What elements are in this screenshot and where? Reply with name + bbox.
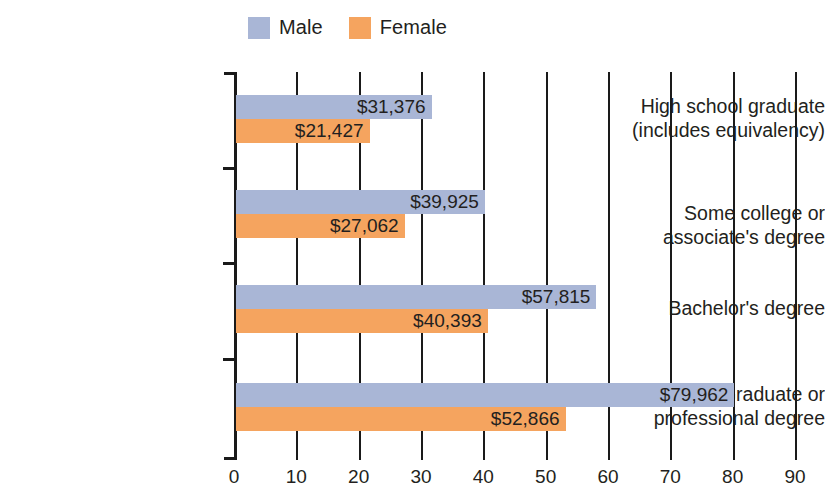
plot-area: $31,376$21,427$39,925$27,062$57,815$40,3… [234,72,795,460]
bar-bachelors-male: $57,815 [236,285,596,309]
bar-graduate-female: $52,866 [236,407,566,431]
bar-value-label: $39,925 [410,191,479,213]
bar-bachelors-female: $40,393 [236,309,488,333]
bar-value-label: $79,962 [660,384,729,406]
x-tick-label-10: 10 [286,466,307,488]
bar-value-label: $40,393 [413,310,482,332]
x-tick-label-30: 30 [410,466,431,488]
category-separator-tick-1 [223,262,234,265]
category-separator-tick-0 [223,167,234,170]
legend-item-male: Male [248,16,323,39]
bar-value-label: $21,427 [295,120,364,142]
x-tick-label-0: 0 [229,466,240,488]
x-tick-label-50: 50 [535,466,556,488]
x-tick-label-90: 90 [784,466,805,488]
x-tick-label-60: 60 [597,466,618,488]
x-tick-label-70: 70 [660,466,681,488]
legend-swatch-male [248,17,270,39]
y-axis-top-cap [224,72,234,75]
x-tick-label-20: 20 [348,466,369,488]
bar-value-label: $52,866 [491,408,560,430]
chart-legend: Male Female [248,16,447,39]
y-axis-bottom-cap [224,457,234,460]
gridline-90 [795,72,797,460]
bar-some-college-female: $27,062 [236,214,405,238]
bar-value-label: $31,376 [357,96,426,118]
bar-high-school-male: $31,376 [236,95,432,119]
bar-value-label: $27,062 [330,215,399,237]
x-tick-label-40: 40 [473,466,494,488]
legend-label-male: Male [279,16,323,39]
legend-label-female: Female [380,16,447,39]
legend-item-female: Female [349,16,447,39]
bar-graduate-male: $79,962 [236,383,734,407]
bar-some-college-male: $39,925 [236,190,485,214]
bar-chart: Male Female High school graduate (includ… [0,0,825,503]
bar-value-label: $57,815 [522,286,591,308]
legend-swatch-female [349,17,371,39]
bar-high-school-female: $21,427 [236,119,370,143]
x-tick-label-80: 80 [722,466,743,488]
category-separator-tick-2 [223,358,234,361]
